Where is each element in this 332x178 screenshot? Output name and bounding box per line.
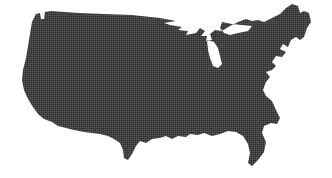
usa-silhouette-figure: Solid dark silhouette of the contiguous … [0,0,332,178]
usa-map-svg: Solid dark silhouette of the contiguous … [0,0,332,178]
